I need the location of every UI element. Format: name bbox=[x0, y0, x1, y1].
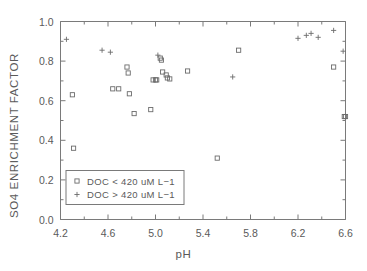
x-tick-label: 5.0 bbox=[148, 227, 163, 239]
y-axis-title: SO4 ENRICHMENT FACTOR bbox=[8, 53, 20, 218]
data-point-square bbox=[185, 69, 189, 73]
series-0 bbox=[70, 48, 347, 160]
data-point-plus bbox=[316, 35, 321, 40]
data-point-plus bbox=[295, 36, 300, 41]
data-point-plus bbox=[64, 37, 69, 42]
legend-box: DOC < 420 uM L−1DOC > 420 uM L−1 bbox=[66, 171, 184, 205]
data-point-square bbox=[149, 108, 153, 112]
y-tick-label: 1.0 bbox=[39, 16, 54, 28]
data-point-plus bbox=[304, 33, 309, 38]
y-tick-label: 0.4 bbox=[39, 134, 54, 146]
data-point-square bbox=[127, 92, 131, 96]
y-tick-label: 0.0 bbox=[39, 214, 54, 226]
data-point-plus bbox=[331, 28, 336, 33]
data-point-square bbox=[70, 93, 74, 97]
data-point-square bbox=[126, 71, 130, 75]
scatter-plot-figure: SO4 ENRICHMENT FACTOR pH DOC < 420 uM L−… bbox=[0, 0, 367, 271]
data-point-plus bbox=[308, 31, 313, 36]
data-series-group bbox=[64, 28, 348, 160]
x-tick-label: 4.2 bbox=[53, 227, 68, 239]
data-point-plus bbox=[341, 49, 346, 54]
data-point-square bbox=[117, 87, 121, 91]
data-point-square bbox=[237, 48, 241, 52]
data-point-square bbox=[111, 87, 115, 91]
data-point-square bbox=[215, 156, 219, 160]
data-point-plus bbox=[108, 50, 113, 55]
data-point-square bbox=[125, 65, 129, 69]
series-1 bbox=[64, 28, 346, 80]
data-point-plus bbox=[99, 48, 104, 53]
data-point-square bbox=[132, 111, 136, 115]
x-tick-label: 5.4 bbox=[196, 227, 211, 239]
x-axis-title: pH bbox=[0, 248, 367, 260]
data-point-square bbox=[71, 146, 75, 150]
legend-label: DOC > 420 uM L−1 bbox=[87, 189, 175, 200]
y-tick-label: 0.2 bbox=[39, 174, 54, 186]
y-tick-label: 0.8 bbox=[39, 55, 54, 67]
data-point-plus bbox=[230, 74, 235, 79]
data-point-square bbox=[332, 65, 336, 69]
x-tick-label: 6.2 bbox=[291, 227, 306, 239]
y-tick-label: 0.6 bbox=[39, 95, 54, 107]
x-tick-label: 5.8 bbox=[243, 227, 258, 239]
x-tick-label: 4.6 bbox=[101, 227, 116, 239]
legend-label: DOC < 420 uM L−1 bbox=[87, 176, 175, 187]
data-point-plus bbox=[155, 53, 160, 58]
x-tick-label: 6.6 bbox=[338, 227, 353, 239]
